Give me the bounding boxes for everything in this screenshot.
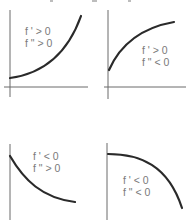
derivative-sign-diagram: f ' > 0 f " > 0 f ' > 0 f " < 0 f ' < 0 …	[0, 0, 192, 220]
first-derivative-label: f ' < 0	[123, 174, 149, 186]
panel-increasing-convex: f ' > 0 f " > 0	[4, 10, 88, 97]
second-derivative-label: f " < 0	[142, 56, 170, 68]
second-derivative-label: f " > 0	[33, 162, 61, 174]
panel-decreasing-convex: f ' < 0 f " > 0	[10, 144, 75, 220]
first-derivative-label: f ' < 0	[33, 150, 59, 162]
second-derivative-label: f " < 0	[123, 186, 151, 198]
second-derivative-label: f " > 0	[25, 37, 53, 49]
panel-increasing-concave: f ' > 0 f " < 0	[104, 10, 186, 99]
first-derivative-label: f ' > 0	[25, 25, 51, 37]
panel-decreasing-concave: f ' < 0 f " < 0	[107, 143, 182, 220]
cropped-heading-fragment	[50, 0, 131, 2]
first-derivative-label: f ' > 0	[142, 44, 168, 56]
